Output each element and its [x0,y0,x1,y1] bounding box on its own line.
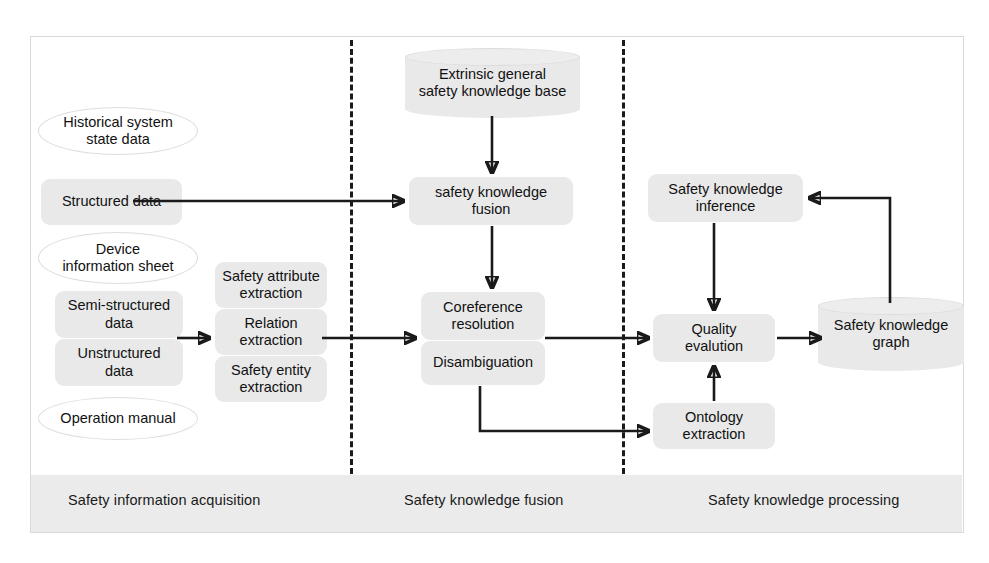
stage-divider-2 [622,40,625,474]
stage-label-fusion: Safety knowledge fusion [404,492,564,508]
stage-label-processing: Safety knowledge processing [708,492,899,508]
node-label: Safety attribute extraction [222,268,320,302]
node-coreference-resolution: Coreference resolution [421,292,545,340]
node-semi-structured-data: Semi-structured data [55,291,183,338]
node-quality-evaluation: Quality evalution [653,314,775,362]
node-label: Structured data [62,193,161,210]
node-label: Device information sheet [62,241,173,275]
node-label: Coreference resolution [443,299,523,333]
node-relation-extraction: Relation extraction [215,309,327,355]
node-label: safety knowledge fusion [435,184,547,218]
node-label: Safety knowledge graph [818,297,964,371]
stage-label-text: Safety information acquisition [68,492,260,508]
node-label: Relation extraction [240,315,303,349]
node-safety-knowledge-inference: Safety knowledge inference [648,174,803,222]
node-label: Ontology extraction [683,409,746,443]
node-safety-entity-extraction: Safety entity extraction [215,356,327,402]
node-historical-system-state-data: Historical system state data [38,107,198,155]
node-device-information-sheet: Device information sheet [38,232,198,284]
node-extrinsic-general-safety-knowledge-base: Extrinsic general safety knowledge base [405,48,580,118]
node-disambiguation: Disambiguation [421,341,545,385]
node-structured-data: Structured data [41,179,182,225]
stage-label-text: Safety knowledge fusion [404,492,564,508]
node-label: Operation manual [60,410,175,427]
stage-label-acquisition: Safety information acquisition [68,492,260,508]
stage-divider-1 [350,40,353,474]
stage-label-text: Safety knowledge processing [708,492,899,508]
node-unstructured-data: Unstructured data [55,339,183,386]
node-ontology-extraction: Ontology extraction [653,403,775,449]
diagram-canvas: Historical system state data Structured … [0,0,989,563]
node-safety-attribute-extraction: Safety attribute extraction [215,262,327,308]
node-label: Semi-structured data [68,297,170,331]
node-label: Unstructured data [77,345,160,379]
node-label: Safety knowledge inference [668,181,782,215]
node-label: Quality evalution [685,321,743,355]
node-label: Disambiguation [433,354,533,371]
node-label: Extrinsic general safety knowledge base [405,48,580,118]
node-operation-manual: Operation manual [38,397,198,440]
node-label: Historical system state data [63,114,173,148]
node-safety-knowledge-graph: Safety knowledge graph [818,297,964,371]
node-label: Safety entity extraction [231,362,311,396]
node-safety-knowledge-fusion: safety knowledge fusion [409,177,573,225]
